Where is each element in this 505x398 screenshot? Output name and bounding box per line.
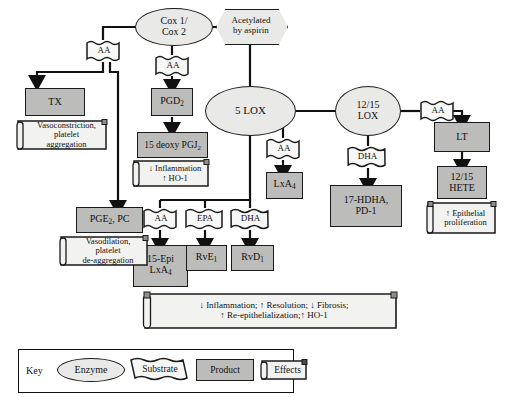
modifier-acetylated-by-aspirin: Acetylated by aspirin [216, 9, 286, 43]
product-pge2-pc: PGE2, PC [76, 207, 143, 233]
enzyme-12-15-lox-label: 12/15 LOX [355, 100, 382, 122]
legend-product-swatch: Product [196, 359, 254, 381]
substrate-aa-thromboxane: AA [85, 40, 123, 62]
legend-substrate-label: Substrate [140, 364, 179, 374]
legend-substrate-swatch: Substrate [129, 357, 191, 381]
product-label: LxA4 [272, 179, 298, 191]
substrate-dha-5lox: DHA [229, 208, 272, 230]
substrate-aa-5lox-branch: AA [142, 208, 180, 230]
legend-enzyme-label: Enzyme [73, 365, 110, 376]
substrate-aa-cox: AA [154, 55, 192, 77]
enzyme-12-15-lox: 12/15 LOX [335, 86, 401, 136]
product-17-hdha-pd1: 17-HDHA, PD-1 [330, 185, 402, 227]
enzyme-5lox: 5 LOX [205, 86, 296, 136]
legend-title: Key [26, 365, 43, 376]
product-label: RvD1 [239, 252, 266, 264]
effects-label: ↑ Epithelial proliferation [437, 209, 488, 227]
product-label: TX [46, 97, 63, 108]
substrate-label: AA [165, 61, 182, 71]
product-rvd1: RvD1 [231, 245, 274, 271]
connector-layer [0, 0, 505, 398]
substrate-label: AA [96, 46, 113, 56]
product-label: PGD2 [158, 96, 186, 108]
substrate-dha-12-15lox: DHA [346, 146, 389, 168]
product-label: RvE1 [194, 252, 219, 264]
product-12-15-hete: 12/15 HETE [437, 166, 487, 199]
substrate-label: AA [430, 106, 447, 116]
enzyme-5lox-label: 5 LOX [233, 105, 268, 117]
effects-label: Vasodilation, platelet de-aggregation [76, 237, 136, 265]
enzyme-cox: Cox 1/ Cox 2 [135, 8, 213, 46]
legend-enzyme-swatch: Enzyme [57, 358, 125, 382]
product-tx: TX [25, 88, 85, 116]
effects-15-deoxy-pgj2: ↓ Inflammation ↑ HO-1 [130, 158, 215, 189]
substrate-aa-12-15lox: AA [419, 100, 457, 122]
effects-epithelial-proliferation: ↑ Epithelial proliferation [424, 200, 502, 236]
product-label: 17-HDHA, PD-1 [342, 195, 391, 217]
product-15-deoxy-pgj2: 15 deoxy PGJ2 [137, 132, 208, 158]
effects-resolution: ↓ Inflammation; ↑ Resolution; ↓ Fibrosis… [140, 290, 403, 332]
substrate-label: AA [276, 144, 293, 154]
product-label: LT [454, 132, 469, 143]
product-label: 15 deoxy PGJ2 [142, 140, 203, 151]
effects-thromboxane: Vasoconstriction, platelet aggregation [14, 118, 114, 152]
product-rve1: RvE1 [186, 245, 227, 271]
pathway-diagram: Cox 1/ Cox 2 5 LOX 12/15 LOX Acetylated … [0, 0, 505, 398]
product-lxa4: LxA4 [266, 172, 303, 199]
product-label: PGE2, PC [88, 214, 132, 226]
legend-product-label: Product [208, 365, 242, 375]
legend-effects-swatch: Effects [258, 358, 312, 382]
effects-pge2-pc: Vasodilation, platelet de-aggregation [57, 234, 154, 268]
substrate-label: DHA [356, 152, 380, 162]
enzyme-cox-label: Cox 1/ Cox 2 [159, 16, 190, 38]
substrate-epa: EPA [184, 208, 226, 230]
effects-label: ↓ Inflammation ↑ HO-1 [142, 164, 204, 182]
effects-label: Vasoconstriction, platelet aggregation [30, 121, 98, 149]
legend-effects-label: Effects [267, 365, 303, 375]
product-lt: LT [434, 122, 490, 152]
modifier-aspirin-label: Acetylated by aspirin [230, 16, 273, 35]
substrate-aa-lipoxin: AA [265, 138, 303, 160]
substrate-label: EPA [195, 214, 215, 224]
substrate-label: AA [153, 214, 170, 224]
product-pgd2: PGD2 [151, 88, 193, 116]
effects-label: ↓ Inflammation; ↑ Resolution; ↓ Fibrosis… [192, 301, 350, 320]
substrate-label: DHA [239, 214, 263, 224]
product-label: 12/15 HETE [447, 172, 477, 194]
